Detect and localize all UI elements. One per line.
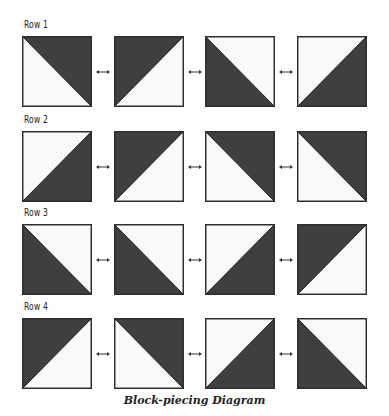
diagram-caption: Block-piecing Diagram [0,394,389,407]
double-arrow-icon [96,351,110,357]
half-square-triangle-block [22,131,92,202]
double-arrow-icon [279,69,293,75]
double-arrow-icon [188,164,202,170]
double-arrow-icon [96,69,110,75]
double-arrow-icon [188,351,202,357]
half-square-triangle-block [297,36,367,107]
row-label: Row 3 [24,207,48,218]
half-square-triangle-block [114,131,184,202]
half-square-triangle-block [297,224,367,295]
half-square-triangle-block [22,224,92,295]
double-arrow-icon [188,69,202,75]
double-arrow-icon [96,257,110,263]
half-square-triangle-block [297,131,367,202]
half-square-triangle-block [22,36,92,107]
half-square-triangle-block [114,318,184,389]
row-label: Row 1 [24,19,48,30]
half-square-triangle-block [205,36,275,107]
half-square-triangle-block [205,131,275,202]
half-square-triangle-block [22,318,92,389]
half-square-triangle-block [297,318,367,389]
half-square-triangle-block [205,318,275,389]
half-square-triangle-block [114,224,184,295]
double-arrow-icon [96,164,110,170]
double-arrow-icon [188,257,202,263]
row-label: Row 2 [24,114,48,125]
half-square-triangle-block [205,224,275,295]
double-arrow-icon [279,257,293,263]
half-square-triangle-block [114,36,184,107]
double-arrow-icon [279,351,293,357]
row-label: Row 4 [24,301,48,312]
double-arrow-icon [279,164,293,170]
